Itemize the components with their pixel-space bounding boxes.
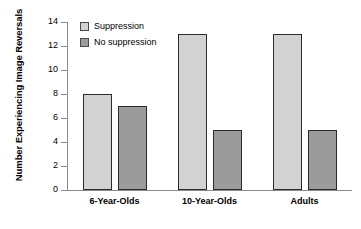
y-axis-tick-labels: 02468101214 (16, 0, 58, 229)
bar-chart: Number Experiencing Image Reversals 0246… (0, 0, 361, 229)
bar-6-year-olds-no-suppression (118, 106, 147, 190)
y-axis-tick (61, 118, 67, 119)
y-axis-tick (61, 46, 67, 47)
y-axis-tick (61, 22, 67, 23)
x-axis-tick-label: 6-Year-Olds (67, 196, 162, 206)
y-axis-tick (61, 166, 67, 167)
bar-adults-no-suppression (308, 130, 337, 190)
y-axis-tick-label: 8 (18, 89, 58, 98)
legend-item: Suppression (80, 19, 200, 33)
chart-legend: SuppressionNo suppression (80, 19, 200, 51)
x-axis-tick-label: Adults (257, 196, 352, 206)
y-axis-tick-label: 2 (18, 161, 58, 170)
x-axis-line (67, 190, 352, 191)
y-axis-tick-label: 0 (18, 185, 58, 194)
legend-swatch-icon (80, 38, 89, 47)
bar-10-year-olds-suppression (178, 34, 207, 190)
legend-label: Suppression (94, 21, 144, 31)
y-axis-tick-label: 12 (18, 41, 58, 50)
legend-label: No suppression (94, 37, 157, 47)
legend-item: No suppression (80, 35, 200, 49)
x-axis-tick-label: 10-Year-Olds (162, 196, 257, 206)
y-axis-tick-label: 10 (18, 65, 58, 74)
bar-6-year-olds-suppression (83, 94, 112, 190)
y-axis-tick (61, 190, 67, 191)
y-axis-tick (61, 94, 67, 95)
y-axis-tick-label: 14 (18, 17, 58, 26)
legend-swatch-icon (80, 22, 89, 31)
y-axis-tick-label: 4 (18, 137, 58, 146)
y-axis-tick (61, 142, 67, 143)
y-axis-tick (61, 70, 67, 71)
bar-10-year-olds-no-suppression (213, 130, 242, 190)
bar-adults-suppression (273, 34, 302, 190)
y-axis-tick-label: 6 (18, 113, 58, 122)
